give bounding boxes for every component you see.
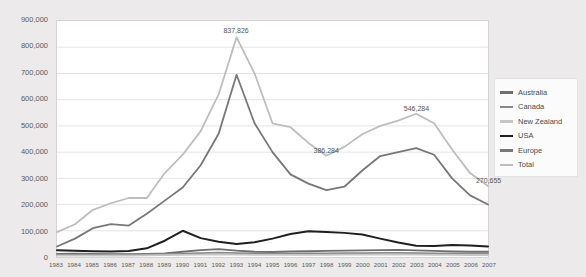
x-axis-tick-label: 1987 bbox=[121, 261, 135, 269]
x-axis-tick-label: 1993 bbox=[230, 261, 244, 269]
y-axis-tick-label: 200,000 bbox=[21, 201, 48, 209]
data-point-label: 546,284 bbox=[404, 105, 429, 113]
legend-swatch-icon bbox=[500, 135, 513, 138]
y-axis-tick-label: 900,000 bbox=[21, 16, 48, 24]
chart-legend: AustraliaCanadaNew ZealandUSAEuropeTotal bbox=[494, 78, 578, 177]
x-axis-tick-label: 1989 bbox=[157, 261, 171, 269]
x-axis-tick-label: 2001 bbox=[374, 261, 388, 269]
x-axis-tick-label: 2006 bbox=[464, 261, 478, 269]
x-axis-tick-label: 2003 bbox=[410, 261, 424, 269]
data-point-label: 386,284 bbox=[314, 147, 339, 155]
x-axis-tick-label: 2000 bbox=[356, 261, 370, 269]
x-axis-tick-label: 1995 bbox=[266, 261, 280, 269]
x-axis-tick-label: 2002 bbox=[392, 261, 406, 269]
y-axis-tick-label: 400,000 bbox=[21, 148, 48, 156]
y-axis-tick-label: 0 bbox=[44, 254, 48, 262]
y-axis-tick-label: 800,000 bbox=[21, 42, 48, 50]
x-axis: 1983198419851986198719881989199019911992… bbox=[56, 261, 489, 275]
series-line-europe bbox=[57, 75, 488, 247]
x-axis-tick-label: 1990 bbox=[175, 261, 189, 269]
legend-swatch-icon bbox=[500, 106, 513, 109]
series-line-usa bbox=[57, 231, 488, 252]
legend-item-total[interactable]: Total bbox=[500, 158, 573, 173]
series-layer bbox=[57, 21, 488, 257]
x-axis-tick-label: 1985 bbox=[85, 261, 99, 269]
x-axis-tick-label: 1998 bbox=[320, 261, 334, 269]
legend-item-label: Total bbox=[518, 160, 534, 169]
y-axis-tick-label: 500,000 bbox=[21, 122, 48, 130]
x-axis-tick-label: 1997 bbox=[302, 261, 316, 269]
x-axis-tick-label: 1986 bbox=[103, 261, 117, 269]
x-axis-tick-label: 1983 bbox=[49, 261, 63, 269]
legend-item-label: Canada bbox=[518, 102, 544, 111]
y-axis-tick-label: 100,000 bbox=[21, 228, 48, 236]
series-line-total bbox=[57, 37, 488, 232]
legend-item-label: New Zealand bbox=[518, 117, 562, 126]
y-axis-tick-label: 600,000 bbox=[21, 95, 48, 103]
plot-area: 837,826386,284546,284270,655 bbox=[56, 20, 489, 258]
legend-item-europe[interactable]: Europe bbox=[500, 143, 573, 158]
x-axis-tick-label: 1994 bbox=[248, 261, 262, 269]
y-axis-tick-label: 700,000 bbox=[21, 69, 48, 77]
x-axis-tick-label: 1991 bbox=[193, 261, 207, 269]
legend-swatch-icon bbox=[500, 149, 513, 152]
legend-item-label: Europe bbox=[518, 146, 542, 155]
legend-swatch-icon bbox=[500, 91, 513, 94]
x-axis-tick-label: 2004 bbox=[428, 261, 442, 269]
x-axis-tick-label: 1992 bbox=[211, 261, 225, 269]
legend-item-label: Australia bbox=[518, 88, 547, 97]
legend-swatch-icon bbox=[500, 120, 513, 123]
x-axis-tick-label: 2007 bbox=[482, 261, 496, 269]
legend-item-usa[interactable]: USA bbox=[500, 129, 573, 144]
data-point-label: 837,826 bbox=[223, 27, 248, 35]
legend-item-canada[interactable]: Canada bbox=[500, 100, 573, 115]
x-axis-tick-label: 1988 bbox=[139, 261, 153, 269]
x-axis-tick-label: 1984 bbox=[67, 261, 81, 269]
data-point-label: 270,655 bbox=[476, 177, 501, 185]
x-axis-tick-label: 2005 bbox=[446, 261, 460, 269]
legend-swatch-icon bbox=[500, 164, 513, 167]
legend-item-label: USA bbox=[518, 131, 533, 140]
legend-item-australia[interactable]: Australia bbox=[500, 85, 573, 100]
line-chart: 900,000800,000700,000600,000500,000400,0… bbox=[0, 0, 586, 277]
y-axis: 900,000800,000700,000600,000500,000400,0… bbox=[0, 0, 52, 258]
x-axis-tick-label: 1996 bbox=[284, 261, 298, 269]
x-axis-tick-label: 1999 bbox=[338, 261, 352, 269]
y-axis-tick-label: 300,000 bbox=[21, 175, 48, 183]
legend-item-new-zealand[interactable]: New Zealand bbox=[500, 114, 573, 129]
